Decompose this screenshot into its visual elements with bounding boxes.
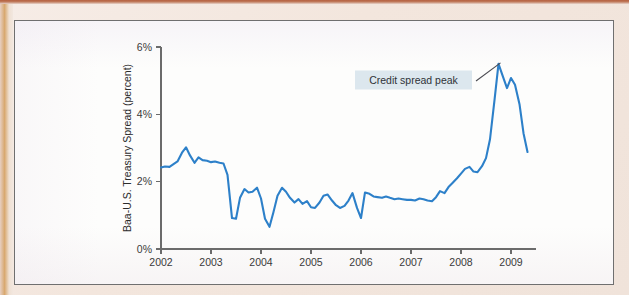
x-tick-label: 2007 xyxy=(399,256,423,268)
chart-figure-frame: 0%2%4%6% 2002200320042005200620072008200… xyxy=(14,20,614,285)
y-tick-label: 4% xyxy=(137,108,152,120)
x-axis-tick-labels: 20022003200420052006200720082009 xyxy=(149,256,523,268)
page-gutter-shadow xyxy=(0,3,13,295)
y-axis-tick-labels: 0%2%4%6% xyxy=(137,41,152,255)
x-tick-label: 2003 xyxy=(199,256,223,268)
data-series-line xyxy=(161,64,528,227)
x-tick-label: 2004 xyxy=(249,256,273,268)
axes xyxy=(156,47,536,254)
x-tick-label: 2009 xyxy=(499,256,523,268)
x-tick-label: 2005 xyxy=(299,256,323,268)
y-axis-title: Baa-U.S. Treasury Spread (percent) xyxy=(121,64,133,232)
y-tick-label: 0% xyxy=(137,243,152,255)
x-tick-label: 2008 xyxy=(449,256,473,268)
scanned-page: 0%2%4%6% 2002200320042005200620072008200… xyxy=(0,0,629,295)
x-axis-ticks xyxy=(161,249,511,254)
annotation-label: Credit spread peak xyxy=(369,74,458,86)
y-tick-label: 2% xyxy=(137,175,152,187)
annotation-credit-spread-peak: Credit spread peak xyxy=(355,63,501,90)
x-tick-label: 2006 xyxy=(349,256,373,268)
y-axis-ticks xyxy=(156,47,161,249)
page-top-rule xyxy=(0,0,629,4)
x-tick-label: 2002 xyxy=(149,256,173,268)
y-tick-label: 6% xyxy=(137,41,152,53)
line-chart: 0%2%4%6% 2002200320042005200620072008200… xyxy=(15,21,615,286)
